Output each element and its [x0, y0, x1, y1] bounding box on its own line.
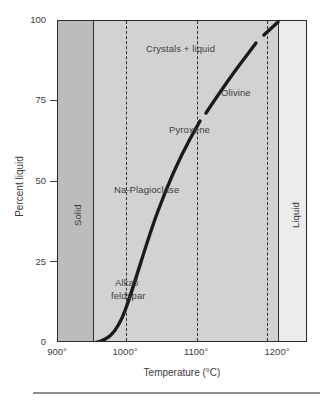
melting-curve-figure: Crystals + liquid Olivine Pyroxene Na-Pl…	[0, 0, 329, 401]
region-label-solid: Solid	[72, 204, 83, 226]
annotation-na-plagioclase: Na-Plagioclase	[114, 184, 179, 195]
y-tick-mark-75	[50, 100, 57, 101]
annotation-alkali: Alkali	[115, 277, 138, 288]
x-tick-label-1200: 1200°	[253, 346, 301, 357]
x-tick-label-1000: 1000°	[101, 346, 149, 357]
annotation-feldspar: feldspar	[111, 290, 146, 301]
plot-area: Crystals + liquid Olivine Pyroxene Na-Pl…	[57, 20, 307, 342]
y-tick-mark-25	[50, 261, 57, 262]
annotation-pyroxene: Pyroxene	[169, 124, 210, 135]
figure-bottom-rule	[33, 392, 320, 394]
y-tick-mark-50	[50, 181, 57, 182]
melting-curve-path	[58, 21, 307, 342]
annotation-olivine: Olivine	[221, 87, 251, 98]
y-tick-label-25: 25	[12, 256, 46, 267]
x-axis-title: Temperature (°C)	[57, 367, 307, 378]
x-tick-label-900: 900°	[33, 346, 81, 357]
y-tick-label-100: 100	[12, 14, 46, 25]
region-label-liquid: Liquid	[290, 202, 301, 228]
annotation-crystals-liquid: Crystals + liquid	[146, 43, 215, 54]
y-tick-label-75: 75	[12, 94, 46, 105]
x-tick-label-1100: 1100°	[172, 346, 220, 357]
y-axis-title: Percent liquid	[14, 127, 25, 247]
